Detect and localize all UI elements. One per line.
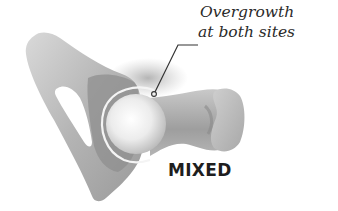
callout-line-1: Overgrowth (200, 2, 336, 22)
callout-marker-dot (152, 92, 157, 97)
impingement-type-label: MIXED (168, 160, 232, 180)
femoral-head (106, 94, 166, 154)
callout-text: Overgrowth at both sites (200, 2, 336, 42)
callout-line-2: at both sites (198, 22, 336, 42)
greater-trochanter (211, 89, 245, 152)
hip-diagram: Overgrowth at both sites MIXED (0, 0, 338, 211)
